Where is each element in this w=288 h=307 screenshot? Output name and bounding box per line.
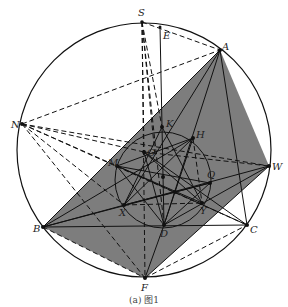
label-F: F [140,282,149,293]
label-W: W [272,161,283,172]
label-A: A [221,41,229,52]
label-B: B [32,223,40,234]
label-D: D [159,228,168,239]
label-K: K [165,118,174,129]
label-Q: Q [207,169,215,180]
label-M: M [107,157,119,168]
label-E: E [162,30,171,41]
geometry-diagram: S E A N W B C D F K H G M Q X Y (a) 图1 [0,0,288,307]
label-S: S [138,7,145,18]
figure-caption: (a) 图1 [129,295,159,305]
label-C: C [250,224,258,235]
label-X: X [118,207,127,218]
label-H: H [195,129,205,140]
label-N: N [10,119,21,130]
label-G: G [147,147,155,158]
shaded-rectangle [43,50,269,278]
